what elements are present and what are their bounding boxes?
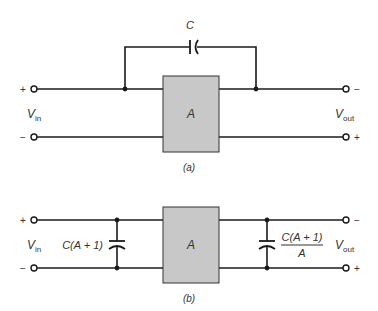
input-top-terminal-icon: [31, 86, 37, 92]
figure-b: C(A + 1) A C(A + 1) A + − − + Vin Vout: [20, 207, 360, 304]
amplifier-label: A: [186, 238, 195, 252]
junction-dot-icon: [254, 87, 259, 92]
input-bottom-terminal-icon: [31, 265, 37, 271]
feedback-capacitor-icon: [190, 40, 198, 54]
output-top-terminal-icon: [343, 86, 349, 92]
output-voltage-label: Vout: [335, 107, 355, 123]
input-capacitor-icon: [109, 220, 125, 268]
output-top-terminal-icon: [343, 217, 349, 223]
output-bottom-polarity: +: [354, 132, 360, 143]
amplifier-label: A: [186, 107, 195, 121]
output-voltage-label: Vout: [335, 238, 355, 254]
input-capacitor-label: C(A + 1): [62, 239, 103, 251]
input-bottom-polarity: −: [20, 263, 26, 274]
caption-a: (a): [183, 162, 195, 173]
capacitor-label: C: [186, 19, 194, 31]
output-top-polarity: −: [354, 84, 360, 95]
junction-dot-icon: [265, 218, 270, 223]
input-top-polarity: +: [20, 215, 26, 226]
junction-dot-icon: [115, 218, 120, 223]
output-capacitor-denominator: A: [297, 247, 305, 259]
input-top-terminal-icon: [31, 217, 37, 223]
junction-dot-icon: [123, 87, 128, 92]
miller-effect-diagram: C A + − − + Vin Vout (a): [0, 0, 378, 311]
figure-a: C A + − − + Vin Vout (a): [20, 19, 360, 173]
input-voltage-label: Vin: [27, 107, 41, 123]
caption-b: (b): [183, 293, 195, 304]
output-capacitor-icon: [259, 220, 275, 268]
input-bottom-polarity: −: [20, 132, 26, 143]
output-capacitor-numerator: C(A + 1): [282, 231, 323, 243]
input-bottom-terminal-icon: [31, 134, 37, 140]
output-bottom-terminal-icon: [343, 265, 349, 271]
junction-dot-icon: [265, 266, 270, 271]
output-top-polarity: −: [354, 215, 360, 226]
input-voltage-label: Vin: [27, 238, 41, 254]
output-bottom-terminal-icon: [343, 134, 349, 140]
input-top-polarity: +: [20, 84, 26, 95]
junction-dot-icon: [115, 266, 120, 271]
output-bottom-polarity: +: [354, 263, 360, 274]
